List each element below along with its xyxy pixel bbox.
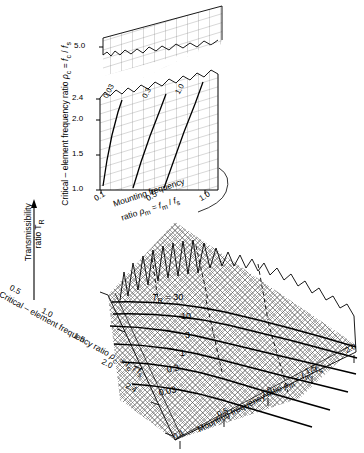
inset-y-label-den-sub: s	[65, 42, 73, 46]
inset-y-label-slash: /	[60, 48, 70, 55]
inset-ytick-1-5: 1.5	[72, 150, 83, 158]
transmissibility-label-line1: Transmissibility	[23, 203, 33, 261]
contour-tr-value: = 30	[163, 292, 183, 302]
inset-y-label-eq: =	[60, 61, 70, 71]
main-contour-label-1: 1	[180, 349, 185, 358]
inset-y-label-prefix: Critical – element frequency ratio	[60, 79, 70, 206]
inset-ytick-1-0: 1.0	[72, 185, 83, 193]
inset-y-label-symbol: ρ	[60, 74, 70, 79]
inset-y-label-den: f	[60, 46, 70, 48]
transmissibility-axis-label-2: ratio TR	[34, 186, 46, 282]
main-contour-label-30: TR = 30	[152, 293, 183, 304]
figure-canvas: Transmissibility ratio TR Critical – ele…	[0, 0, 364, 453]
transmissibility-axis-label: Transmissibility	[24, 184, 33, 280]
transmissibility-label-sub: R	[38, 219, 46, 224]
chart-graphics	[0, 0, 364, 453]
main-contour-label-3: 3	[185, 331, 190, 340]
inset-ytick-2-4: 2.4	[72, 94, 83, 102]
inset-ytick-5-0: 5.0	[74, 42, 85, 50]
main-contour-label-10: 10	[181, 312, 191, 321]
inset-panel	[95, 0, 235, 212]
inset-y-label-sub: c	[65, 71, 73, 75]
inset-ytick-2-0: 2.0	[72, 115, 83, 123]
inset-y-label-num-sub: c	[65, 55, 73, 59]
transmissibility-label-line2: ratio T	[33, 224, 43, 248]
inset-y-label-num: f	[60, 59, 70, 61]
